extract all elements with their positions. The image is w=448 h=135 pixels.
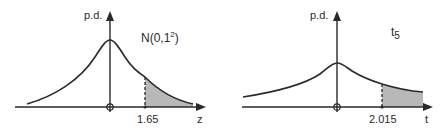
normal-title: N(0,12) — [141, 30, 179, 45]
t-chart: p.d. t5 2.015 t — [242, 9, 433, 125]
t-y-arrow-icon — [333, 11, 341, 21]
normal-y-arrow-icon — [106, 11, 114, 21]
figure: p.d. N(0,12) 1.65 z p.d. t5 2.015 t — [0, 0, 448, 135]
t-tail-shade — [382, 84, 423, 107]
t-x-arrow-icon — [423, 103, 433, 111]
normal-x-arrow-icon — [196, 103, 206, 111]
normal-critical-dot — [143, 105, 146, 108]
normal-chart: p.d. N(0,12) 1.65 z — [15, 9, 206, 125]
normal-critical-label: 1.65 — [137, 113, 158, 125]
t-title: t5 — [391, 25, 400, 41]
t-critical-dot — [380, 105, 383, 108]
normal-x-label: z — [197, 113, 203, 125]
t-critical-label: 2.015 — [369, 113, 397, 125]
t-x-label: t — [425, 113, 428, 125]
normal-y-label: p.d. — [84, 9, 102, 21]
t-y-label: p.d. — [310, 9, 328, 21]
